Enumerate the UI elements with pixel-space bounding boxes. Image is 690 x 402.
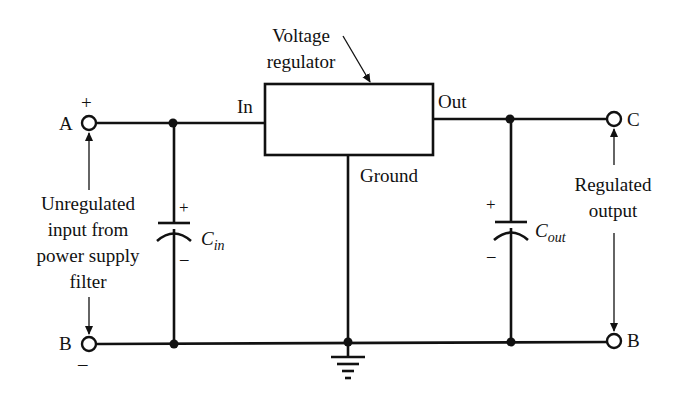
terminal-b-right [607, 334, 621, 348]
regulator-label-line1: Voltage [272, 25, 330, 46]
svg-text:output: output [589, 200, 638, 221]
cin-plus: + [179, 198, 189, 217]
terminal-a [82, 116, 96, 130]
voltage-regulator-block [265, 84, 433, 155]
pin-ground-label: Ground [360, 165, 419, 186]
junction-dot [170, 340, 179, 349]
junction-dot [169, 119, 178, 128]
junction-dot [506, 115, 515, 124]
cin-minus: – [179, 249, 189, 268]
svg-text:Unregulated: Unregulated [41, 193, 135, 214]
svg-text:filter: filter [70, 271, 108, 292]
pin-in-label: In [237, 96, 253, 117]
terminal-b-right-label: B [627, 330, 640, 351]
svg-text:Regulated: Regulated [574, 174, 652, 195]
terminal-b-left-label: B [59, 333, 72, 354]
terminal-a-label: A [59, 113, 73, 134]
input-annotation: Unregulated input from power supply filt… [37, 193, 140, 292]
regulator-label-line2: regulator [267, 51, 336, 72]
cin-label: Cin [201, 228, 225, 253]
junction-dot [507, 338, 516, 347]
svg-text:power supply: power supply [37, 245, 140, 266]
pin-out-label: Out [438, 91, 467, 112]
terminal-c [607, 112, 621, 126]
cout-plus: + [486, 195, 496, 214]
cout-label: Cout [535, 220, 567, 245]
ground-symbol-icon [331, 342, 365, 378]
circuit-diagram: Voltage regulator In Out Ground A + B – … [0, 0, 690, 402]
terminal-b-left [82, 337, 96, 351]
terminal-b-minus: – [77, 353, 88, 374]
cout-minus: – [486, 246, 496, 265]
output-annotation: Regulated output [574, 174, 652, 221]
terminal-c-label: C [627, 109, 640, 130]
regulator-pointer-arrow-icon [343, 36, 370, 82]
terminal-a-plus: + [81, 92, 92, 113]
svg-text:input from: input from [48, 219, 129, 240]
